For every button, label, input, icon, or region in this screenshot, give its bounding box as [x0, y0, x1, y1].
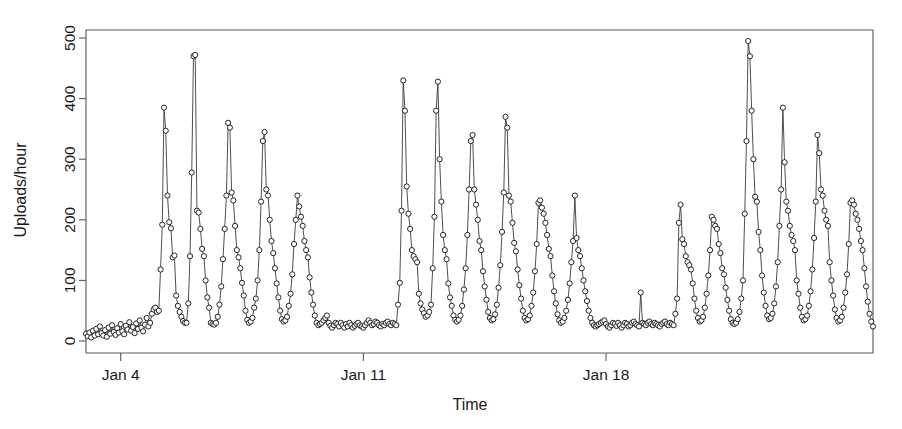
- data-point: [508, 199, 513, 204]
- data-point: [496, 285, 501, 290]
- data-point: [472, 187, 477, 192]
- data-point: [810, 267, 815, 272]
- data-point: [827, 260, 832, 265]
- data-point: [671, 323, 676, 328]
- data-point: [794, 278, 799, 283]
- data-point: [843, 290, 848, 295]
- data-point: [581, 278, 586, 283]
- data-point: [148, 320, 153, 325]
- data-point: [865, 299, 870, 304]
- data-point: [740, 278, 745, 283]
- data-point: [520, 308, 525, 313]
- data-point: [312, 313, 317, 318]
- data-point: [714, 226, 719, 231]
- y-tick-label: 100: [61, 267, 78, 293]
- data-point: [494, 302, 499, 307]
- data-point: [702, 305, 707, 310]
- data-point: [756, 229, 761, 234]
- data-point: [458, 313, 463, 318]
- data-point: [853, 211, 858, 216]
- data-point: [395, 302, 400, 307]
- data-point: [158, 267, 163, 272]
- data-point: [229, 190, 234, 195]
- data-point: [447, 295, 452, 300]
- data-point: [555, 312, 560, 317]
- data-point: [808, 289, 813, 294]
- data-point: [435, 79, 440, 84]
- data-point: [770, 311, 775, 316]
- data-point: [815, 132, 820, 137]
- data-point: [749, 108, 754, 113]
- data-point: [224, 193, 229, 198]
- y-tick-label: 0: [61, 336, 78, 345]
- data-point: [746, 38, 751, 43]
- data-point: [806, 303, 811, 308]
- data-point: [718, 251, 723, 256]
- data-point: [286, 303, 291, 308]
- data-point: [721, 272, 726, 277]
- data-point: [291, 241, 296, 246]
- data-point: [683, 254, 688, 259]
- data-point: [546, 246, 551, 251]
- data-point: [267, 217, 272, 222]
- data-point: [798, 305, 803, 310]
- data-point: [437, 157, 442, 162]
- data-point: [574, 235, 579, 240]
- data-point: [678, 202, 683, 207]
- data-point: [409, 248, 414, 253]
- data-point: [863, 284, 868, 289]
- data-point: [744, 138, 749, 143]
- data-point: [293, 217, 298, 222]
- data-point: [262, 129, 267, 134]
- data-point: [461, 287, 466, 292]
- data-point: [298, 214, 303, 219]
- data-point: [175, 303, 180, 308]
- data-point: [720, 266, 725, 271]
- data-point: [479, 248, 484, 253]
- data-point: [414, 260, 419, 265]
- x-axis-ticks: Jan 4Jan 11Jan 18: [102, 353, 630, 383]
- data-point: [477, 238, 482, 243]
- data-point: [541, 211, 546, 216]
- data-point: [805, 313, 810, 318]
- y-tick-label: 400: [61, 85, 78, 111]
- data-point: [534, 241, 539, 246]
- data-point: [505, 125, 510, 130]
- data-point: [258, 199, 263, 204]
- series-markers-uploads: [83, 38, 875, 340]
- data-point: [187, 254, 192, 259]
- data-point: [789, 232, 794, 237]
- data-point: [232, 223, 237, 228]
- y-axis-title: Uploads/hour: [12, 142, 29, 238]
- data-point: [198, 226, 203, 231]
- data-point: [780, 105, 785, 110]
- data-point: [264, 187, 269, 192]
- data-point: [295, 193, 300, 198]
- data-point: [784, 199, 789, 204]
- data-point: [545, 232, 550, 237]
- data-point: [694, 308, 699, 313]
- data-point: [779, 187, 784, 192]
- data-point: [829, 278, 834, 283]
- data-point: [265, 193, 270, 198]
- data-point: [832, 307, 837, 312]
- data-point: [499, 229, 504, 234]
- data-point: [144, 315, 149, 320]
- data-point: [160, 222, 165, 227]
- x-tick-label: Jan 18: [583, 366, 630, 383]
- data-point: [579, 266, 584, 271]
- data-point: [418, 301, 423, 306]
- data-point: [257, 248, 262, 253]
- data-point: [220, 257, 225, 262]
- data-point: [206, 305, 211, 310]
- data-point: [576, 248, 581, 253]
- data-point: [402, 108, 407, 113]
- data-point: [122, 332, 127, 337]
- data-point: [725, 297, 730, 302]
- data-point: [548, 254, 553, 259]
- data-point: [439, 199, 444, 204]
- data-point: [553, 301, 558, 306]
- data-point: [527, 313, 532, 318]
- data-point: [513, 249, 518, 254]
- data-point: [172, 253, 177, 258]
